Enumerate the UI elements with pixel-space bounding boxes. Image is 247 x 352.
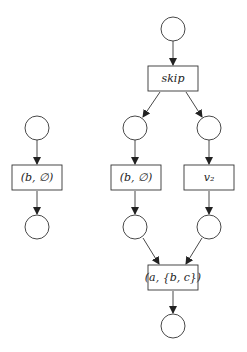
place-top bbox=[161, 17, 185, 41]
place-skip-left bbox=[123, 116, 147, 140]
label-skip: skip bbox=[162, 72, 185, 85]
place-left-out bbox=[25, 215, 49, 239]
arc-skip-to-right bbox=[186, 92, 202, 117]
arc-skip-to-left bbox=[143, 92, 160, 117]
label-v2: v₂ bbox=[204, 171, 215, 184]
place-skip-right bbox=[197, 116, 221, 140]
petri-net-diagram: skip (b, ∅) (b, ∅) v₂ (a, {b, c}) bbox=[0, 0, 247, 352]
label-left: (b, ∅) bbox=[21, 171, 54, 184]
arc-midout-to-join bbox=[143, 238, 159, 264]
place-bottom bbox=[161, 314, 185, 338]
place-left-in bbox=[25, 116, 49, 140]
label-join: (a, {b, c}) bbox=[145, 271, 201, 284]
place-right-out bbox=[197, 215, 221, 239]
arc-rightout-to-join bbox=[186, 238, 202, 264]
place-mid-out bbox=[123, 215, 147, 239]
label-mid: (b, ∅) bbox=[120, 171, 153, 184]
